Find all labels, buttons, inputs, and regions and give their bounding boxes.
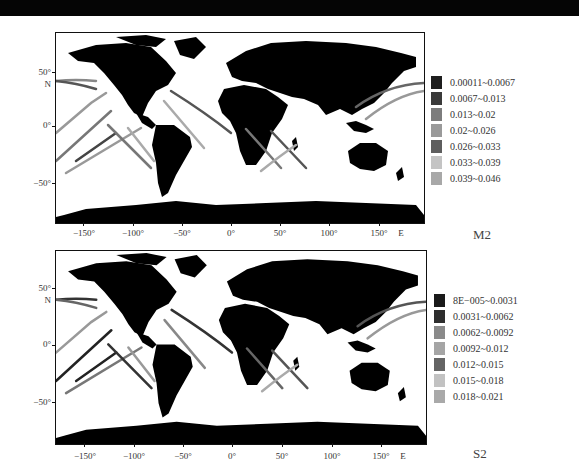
legend-swatch (434, 326, 445, 339)
x-tick-mark (134, 443, 135, 447)
x-tick-mark (183, 443, 184, 447)
legend-item: 0.0092~0.012 (434, 340, 518, 356)
legend-swatch (434, 342, 445, 355)
legend-label: 0.0031~0.0062 (453, 311, 513, 322)
x-tick-100: 100° (312, 451, 352, 461)
legend-label: 0.015~0.018 (453, 375, 503, 386)
legend-item: 0.012~0.015 (434, 356, 518, 372)
x-tick-neg150: −150° (65, 451, 105, 461)
x-tick-neg100: −100° (114, 451, 154, 461)
legend-label: 0.018~0.021 (453, 391, 503, 402)
legend-item: 0.018~0.021 (434, 388, 518, 404)
y-tick-neg50: −50° (21, 397, 51, 407)
panel-s2: 50° N 0° −50° −150° −100° −50° 0° 50° 10… (0, 0, 579, 473)
legend-item: 0.015~0.018 (434, 372, 518, 388)
x-tick-mark (381, 443, 382, 447)
legend-swatch (434, 310, 445, 323)
y-tick-mark (52, 345, 56, 346)
map-graphic (56, 251, 426, 444)
world-map-s2 (55, 250, 427, 445)
legend-label: 0.0062~0.0092 (453, 327, 513, 338)
y-tick-mark (52, 402, 56, 403)
legend-swatch (434, 374, 445, 387)
x-tick-0: 0° (212, 451, 252, 461)
y-tick-0: 0° (21, 339, 51, 349)
x-tick-mark (282, 443, 283, 447)
x-tick-50: 50° (262, 451, 302, 461)
legend-label: 0.0092~0.012 (453, 343, 508, 354)
legend-swatch (434, 390, 445, 403)
legend-s2: 8E−005~0.0031 0.0031~0.0062 0.0062~0.009… (434, 292, 518, 404)
legend-item: 0.0062~0.0092 (434, 324, 518, 340)
x-tick-mark (232, 443, 233, 447)
x-tick-mark (332, 443, 333, 447)
x-axis-e-label: E (383, 451, 423, 461)
y-tick-50: 50° (21, 283, 51, 293)
x-tick-neg50: −50° (163, 451, 203, 461)
legend-item: 8E−005~0.0031 (434, 292, 518, 308)
legend-label: 0.012~0.015 (453, 359, 503, 370)
legend-swatch (434, 358, 445, 371)
legend-item: 0.0031~0.0062 (434, 308, 518, 324)
y-tick-n: N (21, 295, 51, 305)
legend-swatch (434, 294, 445, 307)
y-tick-mark (52, 288, 56, 289)
legend-label: 8E−005~0.0031 (453, 295, 518, 306)
panel-label-s2: S2 (473, 446, 487, 462)
x-tick-mark (84, 443, 85, 447)
